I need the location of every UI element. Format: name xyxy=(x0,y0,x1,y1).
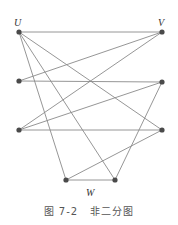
edge-l2-v xyxy=(19,32,162,81)
edge-l3-r2 xyxy=(19,82,162,130)
node-v xyxy=(159,29,164,34)
node-b2 xyxy=(112,177,117,182)
edge-r2-b2 xyxy=(115,82,162,180)
edge-u-b2 xyxy=(19,32,115,180)
node-b1 xyxy=(63,177,68,182)
edge-r3-b1 xyxy=(66,130,162,180)
node-u xyxy=(16,29,21,34)
node-r2 xyxy=(159,79,164,84)
node-r3 xyxy=(159,127,164,132)
node-l2 xyxy=(16,78,21,83)
label-v: V xyxy=(158,17,164,28)
graph-edges xyxy=(19,32,162,180)
label-u: U xyxy=(14,17,21,28)
caption-number: 图 7-2 xyxy=(44,206,79,217)
label-w: W xyxy=(86,187,94,198)
figure-caption: 图 7-2 非二分图 xyxy=(0,203,178,218)
caption-title: 非二分图 xyxy=(90,206,134,217)
edge-u-b1 xyxy=(19,32,66,180)
node-l3 xyxy=(16,127,21,132)
